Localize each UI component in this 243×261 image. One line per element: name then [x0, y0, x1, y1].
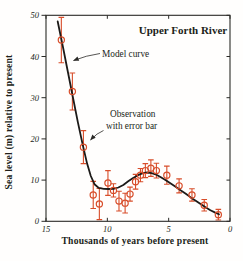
model-curve-arrow: [74, 54, 101, 61]
error-bar: [127, 187, 133, 201]
x-tick-label: 15: [42, 224, 51, 234]
y-tick-label: 50: [31, 10, 40, 20]
annotation-model-curve: Model curve: [102, 49, 149, 59]
error-bar: [116, 191, 122, 211]
x-tick-label: 10: [103, 224, 112, 234]
x-axis-label: Thousands of years before present: [62, 235, 210, 246]
x-tick-label: 5: [167, 224, 171, 234]
y-tick-label: 40: [31, 52, 40, 62]
chart-canvas: 01020304050151050 Upper Forth River Mode…: [0, 0, 243, 261]
x-tick-label: 0: [228, 224, 233, 234]
error-bar: [111, 184, 117, 197]
y-axis-label: Sea level (m) relative to present: [3, 54, 15, 190]
observation-arrow: [91, 131, 104, 141]
y-tick-label: 30: [30, 93, 40, 103]
error-bar: [105, 171, 111, 196]
annotation-observation-line1: Observation: [110, 109, 156, 119]
y-tick-label: 20: [31, 134, 40, 144]
y-tick-label: 0: [35, 216, 40, 226]
chart-title: Upper Forth River: [139, 24, 228, 36]
y-tick-label: 10: [31, 175, 40, 185]
sea-level-figure: 01020304050151050 Upper Forth River Mode…: [0, 0, 243, 261]
annotation-observation-line2: with error bar: [106, 121, 158, 131]
error-bar: [97, 188, 103, 219]
